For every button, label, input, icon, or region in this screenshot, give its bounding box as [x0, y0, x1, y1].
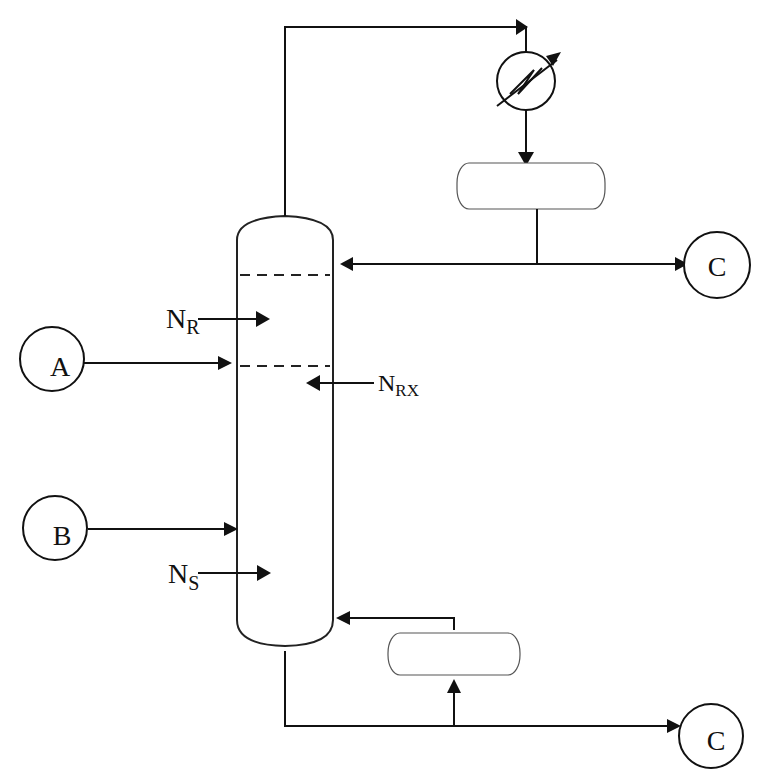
condenser: [497, 52, 561, 166]
reflux-drum: [457, 163, 605, 264]
product-bottom-label: C: [707, 725, 726, 756]
feed-b-line: [88, 522, 238, 536]
feed-a-line: [83, 356, 232, 370]
arrow-left-icon: [340, 257, 353, 271]
n-r-label: NR: [166, 303, 200, 338]
product-node-top: C: [684, 232, 750, 298]
reflux-line: [340, 257, 688, 271]
reboiler: [336, 611, 520, 725]
feed-node-a: A: [20, 327, 84, 391]
arrow-right-icon: [224, 522, 238, 536]
feed-b-label: B: [53, 520, 72, 551]
distillation-column: [237, 216, 333, 646]
process-flow-diagram: C A B NR NRX NS: [0, 0, 772, 783]
n-rx-label: NRX: [378, 370, 419, 400]
arrow-right-icon: [218, 356, 232, 370]
arrow-up-icon: [447, 679, 461, 693]
feed-node-b: B: [23, 496, 87, 560]
product-node-bottom: C: [679, 704, 743, 768]
n-s-label: NS: [168, 558, 199, 594]
arrow-left-icon: [336, 611, 350, 625]
product-top-label: C: [708, 251, 727, 282]
feed-a-label: A: [50, 351, 71, 382]
